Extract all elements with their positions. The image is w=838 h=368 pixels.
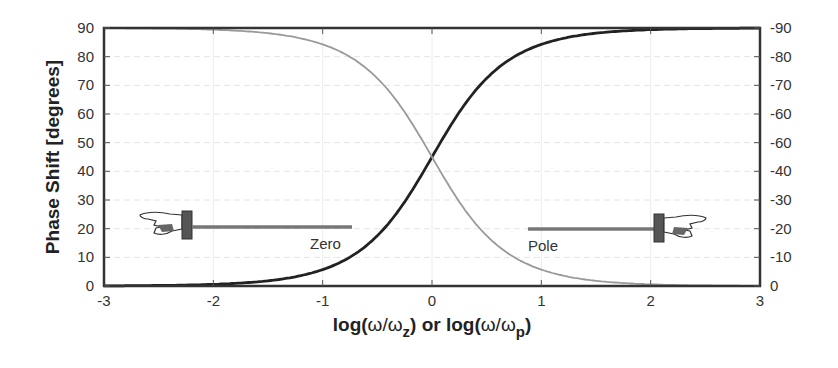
y-tick-label: 10	[77, 248, 94, 265]
y-tick-label: 90	[77, 19, 94, 36]
y-tick-label: 40	[77, 162, 94, 179]
zero-label: Zero	[310, 235, 341, 252]
pole-label: Pole	[528, 237, 558, 254]
y2-tick-label: -10	[770, 248, 792, 265]
y-tick-label: 60	[77, 105, 94, 122]
hand-pointing-left-icon	[140, 211, 192, 239]
x-tick-label: 3	[756, 292, 764, 309]
x-axis-label: log(ω/ωz) or log(ω/ωp)	[333, 314, 531, 340]
y-tick-label: 50	[77, 134, 94, 151]
y2-tick-label: -40	[770, 162, 792, 179]
y-tick-label: 30	[77, 191, 94, 208]
pole-annotation: Pole	[528, 214, 706, 254]
y-tick-label: 80	[77, 48, 94, 65]
y-axis-label: Phase Shift [degrees]	[42, 60, 63, 254]
zero-annotation: Zero	[140, 211, 352, 252]
x-tick-label: 0	[428, 292, 436, 309]
y2-tick-label: -70	[770, 76, 792, 93]
y2-tick-label: -20	[770, 220, 792, 237]
y-tick-label: 20	[77, 220, 94, 237]
y2-tick-label: -30	[770, 191, 792, 208]
y2-tick-labels: 0-10-20-30-40-60-60-70-80-90	[770, 19, 792, 294]
x-tick-label: 2	[646, 292, 654, 309]
y2-tick-label: -80	[770, 48, 792, 65]
x-tick-label: -2	[207, 292, 220, 309]
x-tick-label: -3	[97, 292, 110, 309]
x-tick-labels: -3-2-10123	[97, 292, 764, 309]
x-tick-label: 1	[537, 292, 545, 309]
y-tick-label: 70	[77, 76, 94, 93]
y2-tick-label: 0	[770, 277, 778, 294]
y2-tick-label: -60	[770, 134, 792, 151]
y2-tick-label: -90	[770, 19, 792, 36]
hand-pointing-right-icon	[654, 214, 706, 242]
phase-chart: 0102030405060708090 0-10-20-30-40-60-60-…	[0, 0, 838, 368]
y-tick-label: 0	[86, 277, 94, 294]
y2-tick-label: -60	[770, 105, 792, 122]
x-tick-label: -1	[316, 292, 329, 309]
y-tick-labels: 0102030405060708090	[77, 19, 94, 294]
